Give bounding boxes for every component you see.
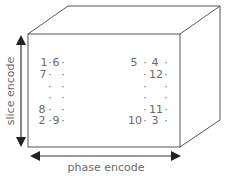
sample-dot: · <box>48 114 52 127</box>
bottom-right-edge <box>180 120 220 147</box>
arrow-down-icon <box>16 137 26 147</box>
arrow-up-icon <box>16 35 26 45</box>
arrow-right-icon <box>171 151 181 161</box>
top-right-edge <box>180 6 220 34</box>
sample-number: 3 <box>152 114 159 127</box>
slice-encode-label: slice encode <box>4 57 17 126</box>
sample-number: 2 <box>39 114 46 127</box>
sample-number: 5 <box>131 56 138 69</box>
sample-number: 6 <box>53 56 60 69</box>
sample-number: 9 <box>53 114 60 127</box>
top-left-edge <box>28 6 68 34</box>
sample-number: 10 <box>128 114 142 127</box>
cube-diagram: slice encode phase encode 1 · 6 · 7 · · … <box>0 0 226 176</box>
sample-dot: · <box>61 114 65 127</box>
sample-number: 12 <box>149 68 163 81</box>
right-sample-grid: 5 · 4 · · 12 · · · · · · 11 · 10 · 3 · <box>128 56 168 127</box>
phase-encode-label: phase encode <box>68 161 145 174</box>
sample-dot: · <box>143 114 147 127</box>
phase-encode-arrow <box>30 151 181 161</box>
left-sample-grid: 1 · 6 · 7 · · · · · · 8 · · 2 · 9 · <box>39 56 65 127</box>
sample-number: 7 <box>40 68 47 81</box>
slice-encode-arrow <box>16 35 26 147</box>
sample-dot: · <box>164 114 168 127</box>
arrow-left-icon <box>30 151 40 161</box>
